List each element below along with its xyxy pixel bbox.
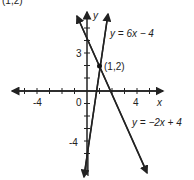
y-tick-label-neg4: -4 (69, 137, 78, 148)
y-axis-label: y (92, 10, 99, 21)
equation-6x-minus4: y = 6x − 4 (109, 28, 154, 39)
top-fragment-label: (1,2) (2, 0, 23, 6)
equation-neg2x-plus4: y = −2x + 4 (131, 117, 182, 128)
graph: (1,2) -4 0 4 3 -4 x y (1,2) y = 6x − 4 y… (0, 0, 194, 180)
x-tick-label-0: 0 (76, 97, 82, 108)
x-axis-label: x (156, 97, 163, 108)
intersection-point (97, 64, 102, 69)
x-tick-label-neg4: -4 (33, 97, 42, 108)
y-tick-label-3: 3 (76, 48, 82, 59)
intersection-label: (1,2) (104, 61, 125, 72)
x-tick-label-4: 4 (133, 97, 139, 108)
